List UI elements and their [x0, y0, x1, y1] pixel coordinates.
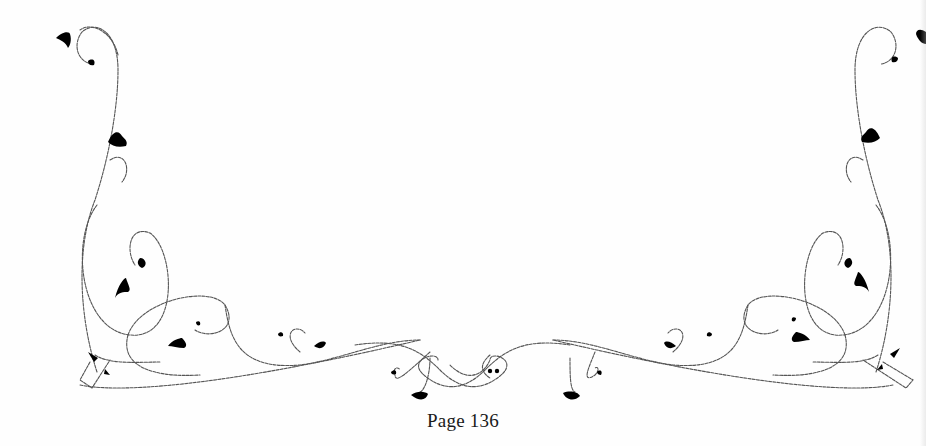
page-edge-shadow — [920, 0, 926, 446]
bottom-center-flourish — [355, 343, 602, 400]
left-corner-vine — [56, 27, 420, 388]
floral-vine-border-ornament — [0, 0, 926, 446]
book-page: Page 136 — [0, 0, 926, 446]
right-corner-vine — [553, 27, 926, 388]
page-number: Page 136 — [0, 410, 926, 432]
